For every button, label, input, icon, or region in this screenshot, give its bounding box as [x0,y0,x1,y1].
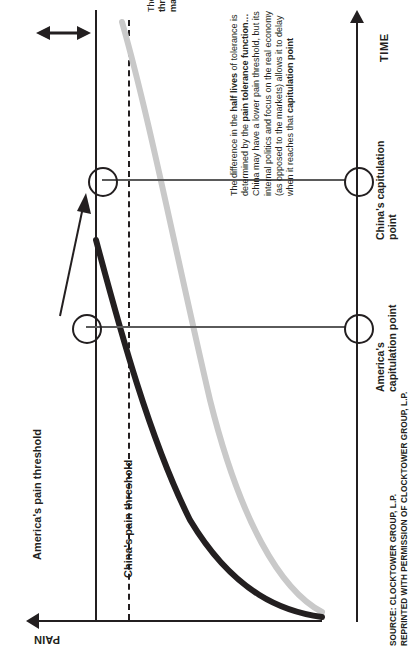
mid-frag-9a: that [285,113,295,131]
mid-frag-6: and focus on the real economy [263,11,273,134]
china-pain-threshold-label: China's pain threshold [122,460,134,578]
note-to-china-point-arrow-icon [60,193,91,316]
pain-axis-label: PAIN [34,634,60,646]
material-power-annotation: The difference between pain thresholds i… [146,0,180,12]
material-power-double-arrow-icon [36,26,91,40]
america-pain-threshold-label: America's pain threshold [31,429,43,560]
pain-tolerance-annotation-text: The difference in the half lives of tole… [229,6,296,196]
mid-frag-1: The difference in the [229,112,239,196]
china-capitulation-point-text: China's capitulation point [374,130,398,240]
note-frag-bold-thresholds: thresholds [157,0,167,12]
note-to-america-point-arrow-icon [48,205,55,300]
china-capitulation-point-label: China's capitulation point [374,130,398,240]
america-capitulation-axis-marker [344,314,374,344]
mid-frag-bold-function: pain tolerance function… [240,13,250,121]
china-capitulation-axis-marker [344,167,374,197]
source-credit: SOURCE: CLOCKTOWER GROUP, L.P. REPRINTED… [388,392,410,646]
china-capitulation-marker [88,167,118,197]
note-frag-1: The difference [146,0,156,12]
note-frag-bold-material-power: material power [168,0,178,12]
america-capitulation-point-text: America's capitulation point [374,282,398,392]
pain-tolerance-annotation: The difference in the half lives of tole… [229,6,296,196]
source-line-1: SOURCE: CLOCKTOWER GROUP, L.P. [388,392,399,646]
time-axis-label: TIME [378,33,390,62]
mid-frag-bold-capitulation: capitulation point [285,38,295,113]
america-capitulation-point-label: America's capitulation point [374,282,398,392]
source-line-2: REPRINTED WITH PERMISSION OF CLOCKTOWER … [399,392,410,646]
america-capitulation-marker [72,314,102,344]
mid-frag-bold-half-lives: half lives [229,73,239,112]
mid-frag-7: (as opposed to the markets) [274,84,284,196]
mid-frag-4: China may have a lower pain [251,80,261,196]
material-power-annotation-text: The difference between pain thresholds i… [146,0,180,12]
